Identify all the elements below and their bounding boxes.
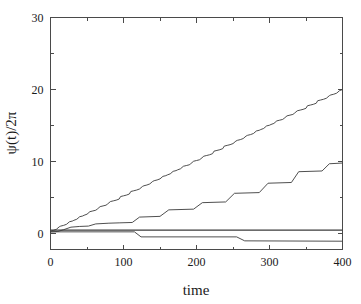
x-ticklabel-200: 200 (188, 255, 206, 269)
y-ticklabel-10: 10 (32, 155, 44, 169)
x-ticklabel-300: 300 (261, 255, 279, 269)
y-ticklabel-20: 20 (32, 83, 44, 97)
y-ticklabel-30: 30 (32, 11, 44, 25)
x-axis-minor-ticks (87, 18, 306, 250)
x-axis-tick-labels: 0100200300400 (48, 255, 352, 269)
series-slow-staircase (51, 163, 343, 232)
x-ticklabel-100: 100 (115, 255, 133, 269)
x-axis-label: time (183, 282, 210, 298)
x-ticklabel-0: 0 (48, 255, 54, 269)
plot-svg: 0100200300400 0102030 time ψ(t)/2π (0, 0, 361, 304)
y-axis-minor-ticks (51, 54, 343, 198)
x-ticklabel-400: 400 (334, 255, 352, 269)
x-axis-major-ticks (51, 18, 343, 250)
plot-frame (51, 18, 343, 250)
series-fast-staircase (51, 90, 343, 232)
y-axis-major-ticks (51, 18, 343, 234)
chart-figure: 0100200300400 0102030 time ψ(t)/2π (0, 0, 361, 304)
series-descending-step (51, 232, 343, 241)
y-axis-label: ψ(t)/2π (3, 111, 20, 154)
data-series-group (51, 90, 343, 242)
y-ticklabel-0: 0 (38, 227, 44, 241)
y-axis-tick-labels: 0102030 (32, 11, 44, 241)
